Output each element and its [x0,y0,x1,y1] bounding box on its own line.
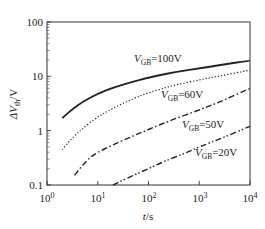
y-axis-label: ΔVth/V [7,89,22,120]
y-tick-1: 1 [38,125,44,137]
x-tick-labels: 100 101 102 103 104 [40,191,258,204]
label-vgb-50v: VGB=50V [182,118,224,133]
series-vgb-60v [62,70,250,149]
y-tick-10: 10 [32,70,44,82]
x-tick-1e3: 103 [193,191,208,204]
x-tick-1e0: 100 [40,191,55,204]
y-tick-0.1: 0.1 [29,179,43,191]
x-tick-1e4: 104 [243,191,258,204]
x-tick-1e2: 102 [142,191,157,204]
series-vgb-100v [62,61,250,119]
series-vgb-50v [75,88,250,175]
x-axis-label: t/s [143,210,153,222]
chart-canvas: 100 10 1 0.1 100 101 102 103 104 t/s ΔVt… [0,0,265,229]
label-vgb-60v: VGB=60V [161,88,203,103]
series-labels: VGB=100V VGB=60V VGB=50V VGB=20V [134,52,237,161]
y-tick-100: 100 [27,16,44,28]
axis-major-ticks [47,22,250,185]
label-vgb-100v: VGB=100V [134,52,182,67]
x-tick-1e1: 101 [91,191,106,204]
label-vgb-20v: VGB=20V [195,146,237,161]
plot-frame [47,22,250,185]
y-tick-labels: 100 10 1 0.1 [27,16,44,191]
